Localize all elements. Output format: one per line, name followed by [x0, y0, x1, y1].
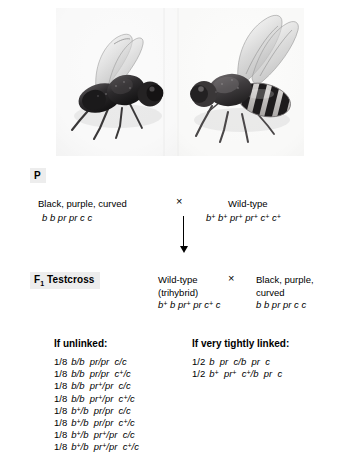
- progeny-row: 1/8b+/b pr/pr c+/c: [54, 417, 139, 429]
- p-left-genotype: b b pr pr c c: [42, 212, 92, 225]
- f1-left-genotype: b+ b pr+ pr c+ c: [158, 299, 220, 312]
- progeny-row: 1/8b/b pr+/pr c/c: [54, 380, 139, 392]
- f1-right-phenotype-line1: Black, purple,: [256, 274, 314, 285]
- f1-left-phenotype-line2: (trihybrid): [158, 287, 198, 298]
- fly-photo-mutant: [56, 8, 184, 156]
- descent-arrow-line: [183, 216, 184, 248]
- label-p-generation: P: [30, 168, 46, 183]
- f1-left-phenotype: Wild-type (trihybrid): [158, 274, 198, 299]
- progeny-list-linked: 1/2b pr c/b pr c 1/2b+ pr+ c+/b pr c: [192, 356, 282, 380]
- f1-label-rest: Testcross: [44, 274, 94, 285]
- p-left-phenotype: Black, purple, curved: [38, 198, 127, 211]
- label-f1-testcross: F1 Testcross: [30, 272, 100, 289]
- f1-right-phenotype: Black, purple, curved: [256, 274, 314, 299]
- f1-right-phenotype-line2: curved: [256, 287, 285, 298]
- progeny-row: 1/2b+ pr+ c+/b pr c: [192, 368, 282, 380]
- progeny-list-unlinked: 1/8b/b pr/pr c/c 1/8b/b pr/pr c+/c 1/8b/…: [54, 356, 139, 454]
- descent-arrow-head: [180, 246, 188, 253]
- heading-if-very-tightly-linked: If very tightly linked:: [192, 338, 289, 349]
- fly-photo-wildtype: [176, 8, 304, 156]
- p-right-phenotype: Wild-type: [228, 198, 268, 211]
- progeny-row: 1/8b/b pr/pr c/c: [54, 356, 139, 368]
- p-right-genotype: b+ b+ pr+ pr+ c+ c+: [206, 212, 281, 225]
- progeny-row: 1/8b/b pr+/pr c+/c: [54, 393, 139, 405]
- progeny-row: 1/2b pr c/b pr c: [192, 356, 282, 368]
- cross-symbol-f1: ×: [228, 273, 234, 284]
- cross-symbol-p: ×: [176, 196, 182, 207]
- progeny-row: 1/8b+/b pr+/pr c/c: [54, 429, 139, 441]
- heading-if-unlinked: If unlinked:: [54, 338, 107, 349]
- fly-photograph-strip: [0, 0, 338, 160]
- f1-right-genotype: b b pr pr c c: [256, 299, 306, 312]
- progeny-row: 1/8b+/b pr+/pr c+/c: [54, 441, 139, 453]
- progeny-row: 1/8b+/b pr/pr c/c: [54, 405, 139, 417]
- progeny-row: 1/8b/b pr/pr c+/c: [54, 368, 139, 380]
- f1-left-phenotype-line1: Wild-type: [158, 274, 198, 285]
